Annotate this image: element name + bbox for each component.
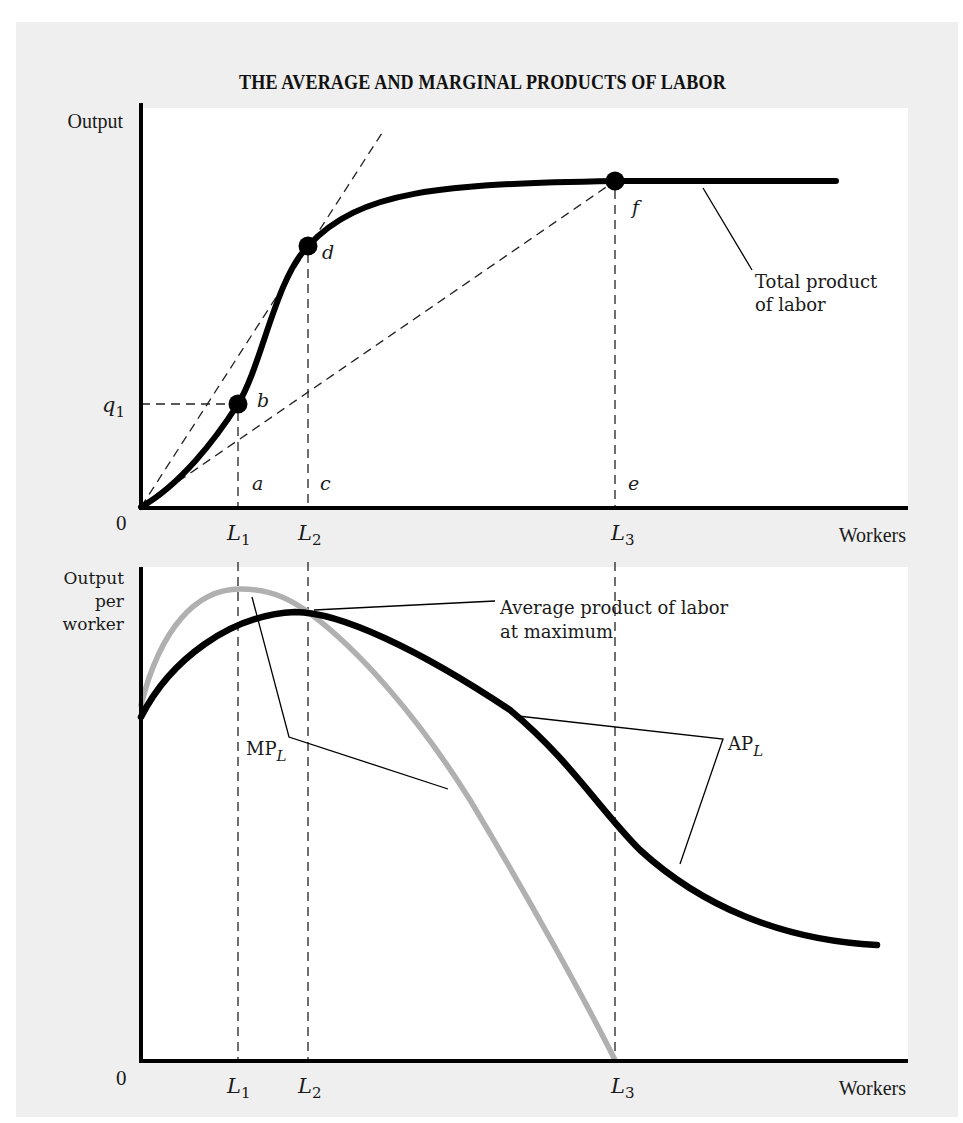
tangent-ray-d <box>141 133 382 507</box>
top-l3-tick-label: L3 <box>610 521 635 549</box>
top-l2-tick-label: L2 <box>297 521 322 549</box>
bottom-l3-tick-label: L3 <box>610 1074 635 1102</box>
point-label-e: e <box>628 472 639 494</box>
total-product-label-line2: of labor <box>755 294 826 315</box>
apl-curve <box>141 612 877 945</box>
mpl-label: MPL <box>246 738 287 765</box>
apl-max-label-line1: Average product of labor <box>499 597 729 618</box>
top-dashed-guides <box>141 133 615 507</box>
point-b <box>229 395 248 414</box>
apl-label: APL <box>727 733 763 760</box>
point-d <box>299 237 318 256</box>
top-x-axis-label: Workers <box>839 524 906 546</box>
total-product-label-line1: Total product <box>755 271 878 292</box>
top-origin-label: 0 <box>116 511 127 535</box>
apl-max-label-line2: at maximum <box>500 621 613 642</box>
chart-canvas: Output Workers 0 q1 L1 L2 L3 a b c d e f… <box>0 0 963 1123</box>
point-label-a: a <box>252 472 263 494</box>
point-label-c: c <box>320 472 331 494</box>
apl-leader <box>518 716 723 864</box>
top-y-axis-label: Output <box>67 110 123 133</box>
top-l1-tick-label: L1 <box>226 521 251 549</box>
total-product-leader <box>703 188 752 270</box>
bottom-origin-label: 0 <box>116 1066 127 1090</box>
bottom-x-axis-label: Workers <box>839 1077 906 1099</box>
bottom-chart: Output per worker Workers 0 L1 L2 L3 Ave… <box>63 562 908 1102</box>
apl-max-leader <box>314 601 495 610</box>
point-label-d: d <box>322 241 334 263</box>
ray-to-f <box>141 181 615 507</box>
bottom-leader-lines <box>252 597 723 864</box>
q1-tick-label: q1 <box>102 393 125 421</box>
point-label-b: b <box>257 389 269 411</box>
bottom-l1-tick-label: L1 <box>226 1074 251 1102</box>
point-label-f: f <box>630 196 642 218</box>
top-chart: Output Workers 0 q1 L1 L2 L3 a b c d e f… <box>67 103 908 549</box>
mpl-curve <box>141 589 615 1060</box>
bottom-y-axis-label-line3: worker <box>63 614 125 634</box>
bottom-l2-tick-label: L2 <box>297 1074 322 1102</box>
point-f <box>606 172 625 191</box>
bottom-y-axis-label-line1: Output <box>64 568 125 588</box>
total-product-curve <box>141 181 836 507</box>
bottom-y-axis-label-line2: per <box>95 591 125 611</box>
